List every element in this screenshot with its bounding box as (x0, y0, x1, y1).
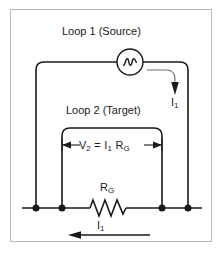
ac-source-circle (117, 49, 143, 75)
node-loop1-left (33, 205, 40, 212)
label-loop2: Loop 2 (Target) (66, 105, 141, 116)
resistor-label-r: R (100, 181, 108, 193)
node-loop2-right (159, 205, 166, 212)
resistor-rg-zigzag (90, 200, 126, 216)
equation-i-sub: 1 (107, 144, 111, 153)
label-loop1: Loop 1 (Source) (62, 26, 141, 37)
current-bottom-sub: 1 (100, 224, 104, 233)
current-right-sub: 1 (174, 101, 178, 110)
equation-v-sub: 2 (86, 144, 90, 153)
loop1-top-right-wire (143, 62, 188, 208)
loop1-top-left-wire (36, 62, 117, 70)
label-current-right: I1 (171, 97, 179, 108)
node-loop1-right (185, 205, 192, 212)
node-loop2-left (59, 205, 66, 212)
current-arrow-bottom-head-icon (68, 231, 81, 239)
current-arrow-right-curve (147, 70, 175, 84)
circuit-drawing (0, 0, 224, 253)
resistor-label-sub: G (108, 186, 114, 195)
label-current-bottom: I1 (97, 220, 105, 231)
dimension-arrowhead-left-icon (62, 142, 71, 149)
label-resistor-rg: RG (100, 182, 114, 193)
dimension-arrowhead-right-icon (153, 142, 162, 149)
current-arrow-right-head-icon (171, 82, 179, 95)
label-equation-v2: V2 = I1 RG (79, 140, 130, 151)
circuit-diagram-figure: Loop 1 (Source) Loop 2 (Target) V2 = I1 … (0, 0, 224, 253)
equation-r-sub: G (123, 144, 129, 153)
